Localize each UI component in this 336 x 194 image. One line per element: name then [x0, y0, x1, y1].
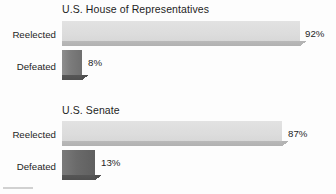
category-label-senate-defeated: Defeated: [0, 161, 56, 172]
bar-bevel-corner: [95, 175, 102, 180]
chart-title-senate: U.S. Senate: [62, 104, 120, 116]
bar-bevel-corner: [82, 75, 89, 80]
bar-bevel-corner: [300, 41, 307, 46]
scan-artifact-mark: [3, 187, 33, 189]
value-label-house-defeated: 8%: [88, 57, 102, 68]
bar-bottom-face: [62, 141, 282, 146]
category-label-house-reelected: Reelected: [0, 29, 56, 40]
bar-bottom-face: [62, 175, 95, 180]
value-label-senate-reelected: 87%: [288, 128, 307, 139]
bar-bevel-corner: [282, 141, 289, 146]
bar-bottom-face: [62, 75, 82, 80]
bar-bottom-face: [62, 41, 300, 46]
value-label-senate-defeated: 13%: [101, 157, 120, 168]
bar-senate-reelected: [62, 121, 282, 146]
category-label-house-defeated: Defeated: [0, 61, 56, 72]
bar-house-defeated: [62, 50, 82, 80]
bar-senate-defeated: [62, 150, 95, 180]
chart-title-house: U.S. House of Representatives: [62, 3, 209, 15]
bar-house-reelected: [62, 21, 300, 46]
category-label-senate-reelected: Reelected: [0, 129, 56, 140]
chart-panel-senate: U.S. Senate Reelected 87% Defeated 13%: [0, 97, 336, 194]
chart-panel-house: U.S. House of Representatives Reelected …: [0, 0, 336, 97]
value-label-house-reelected: 92%: [305, 28, 324, 39]
